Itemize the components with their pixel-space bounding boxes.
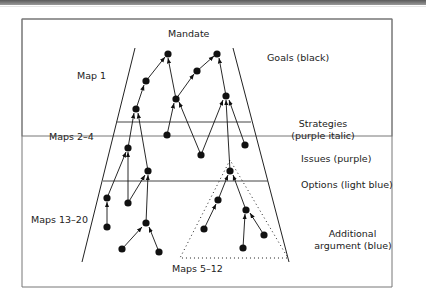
node-strategy [124, 144, 131, 151]
label-additional-line1: Additional [310, 228, 395, 240]
node-goal [132, 105, 139, 112]
label-additional-argument: Additional argument (blue) [310, 228, 395, 252]
edges [107, 56, 264, 252]
node-argument [103, 223, 110, 230]
node-argument [200, 225, 207, 232]
node-argument [155, 248, 162, 255]
node-goal [172, 95, 179, 102]
node-strategy [241, 141, 248, 148]
node-strategy [197, 151, 204, 158]
node-argument [239, 244, 246, 251]
node-issue [226, 167, 233, 174]
node-option [214, 196, 221, 203]
node-argument [260, 231, 267, 238]
node-goal [164, 50, 171, 57]
node-issue [144, 167, 151, 174]
label-strategies: Strategies (purple italic) [293, 118, 353, 142]
node-option [142, 219, 149, 226]
node-strategy [163, 131, 170, 138]
label-options: Options (light blue) [301, 179, 393, 191]
maps-5-12-triangle [180, 160, 288, 258]
label-maps-13-20: Maps 13–20 [31, 214, 88, 226]
label-maps-5-12: Maps 5–12 [172, 263, 223, 275]
node-goal [222, 92, 229, 99]
hierarchy-diagram [0, 0, 426, 300]
node-argument [118, 245, 125, 252]
label-strategies-line2: (purple italic) [279, 130, 367, 142]
label-mandate: Mandate [168, 28, 209, 40]
node-goal [193, 67, 200, 74]
node-option [103, 194, 110, 201]
node-option [124, 199, 131, 206]
node-goal [213, 50, 220, 57]
label-additional-line2: argument (blue) [303, 240, 403, 252]
label-issues: Issues (purple) [301, 153, 371, 165]
node-goal [142, 77, 149, 84]
node-option [242, 206, 249, 213]
label-goals: Goals (black) [267, 52, 329, 64]
label-maps-2-4: Maps 2–4 [49, 131, 94, 143]
label-map-1: Map 1 [77, 70, 106, 82]
label-strategies-line1: Strategies [293, 118, 353, 130]
